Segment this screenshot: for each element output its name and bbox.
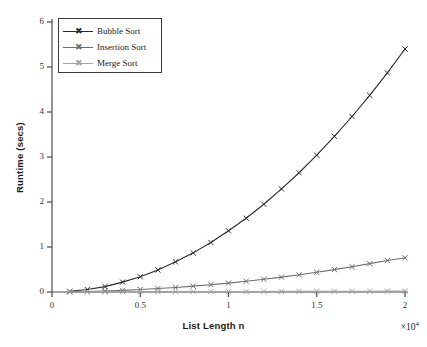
series-bubble-sort — [67, 46, 408, 294]
x-axis-title: List Length n — [0, 320, 427, 331]
y-tick-label: 0 — [20, 286, 44, 296]
data-point-marker — [314, 153, 319, 158]
legend-swatch-bubble-sort: ✖ — [63, 26, 93, 36]
x-axis-multiplier: ×104 — [401, 320, 419, 332]
data-point-marker — [385, 70, 390, 75]
data-point-marker — [261, 202, 266, 207]
x-tick-label: 1 — [209, 300, 249, 310]
legend-swatch-insertion-sort: ✖ — [63, 42, 93, 52]
y-tick-label: 4 — [20, 106, 44, 116]
data-point-marker — [402, 46, 407, 51]
legend-item-merge-sort: ✖ Merge Sort — [59, 55, 161, 71]
data-point-marker — [226, 228, 231, 233]
y-tick-label: 3 — [20, 151, 44, 161]
series-merge-sort — [67, 289, 408, 295]
data-point-marker — [191, 250, 196, 255]
data-point-marker — [244, 216, 249, 221]
legend-label-merge-sort: Merge Sort — [97, 58, 138, 68]
legend-item-insertion-sort: ✖ Insertion Sort — [59, 39, 161, 55]
data-point-marker — [367, 93, 372, 98]
y-tick-label: 2 — [20, 196, 44, 206]
data-point-marker — [332, 134, 337, 139]
y-tick-label: 6 — [20, 16, 44, 26]
chart-legend: ✖ Bubble Sort ✖ Insertion Sort ✖ Merge S… — [58, 18, 162, 73]
data-point-marker — [279, 186, 284, 191]
x-multiplier-exponent: 4 — [416, 320, 420, 328]
data-point-marker — [297, 170, 302, 175]
series-insertion-sort — [67, 255, 408, 294]
y-axis-title-wrapper: Runtime (secs) — [2, 0, 22, 347]
legend-label-bubble-sort: Bubble Sort — [97, 26, 140, 36]
x-tick-label: 1.5 — [297, 300, 337, 310]
legend-item-bubble-sort: ✖ Bubble Sort — [59, 23, 161, 39]
data-point-marker — [173, 259, 178, 264]
legend-label-insertion-sort: Insertion Sort — [97, 42, 146, 52]
data-point-marker — [208, 240, 213, 245]
data-point-marker — [349, 114, 354, 119]
sorting-runtime-chart: Runtime (secs) List Length n ×104 ✖ Bubb… — [0, 0, 427, 347]
y-tick-label: 1 — [20, 241, 44, 251]
y-tick-label: 5 — [20, 61, 44, 71]
series-line — [70, 258, 405, 292]
legend-swatch-merge-sort: ✖ — [63, 58, 93, 68]
series-line — [70, 49, 405, 291]
data-point-marker — [155, 267, 160, 272]
x-tick-label: 2 — [385, 300, 425, 310]
x-tick-label: 0 — [32, 300, 72, 310]
x-tick-label: 0.5 — [120, 300, 160, 310]
